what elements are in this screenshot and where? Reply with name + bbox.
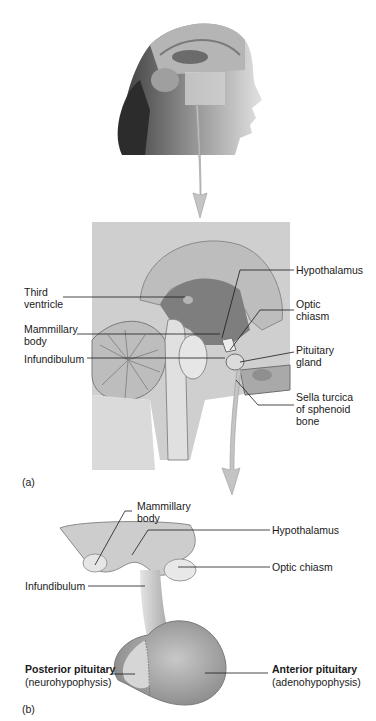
panel-a-label: (a) (22, 476, 35, 488)
label-optic-chiasm-b: Optic chiasm (272, 561, 333, 573)
label-neurohypophysis: (neurohypophysis) (25, 676, 111, 688)
label-pituitary-gland: Pituitary gland (296, 344, 334, 368)
label-adenohypophysis: (adenohypophysis) (272, 676, 361, 688)
label-hypothalamus: Hypothalamus (296, 264, 363, 276)
panel-b-label: (b) (22, 703, 35, 715)
label-optic-chiasm: Optic chiasm (296, 298, 329, 322)
label-mammillary-body: Mammillary body (24, 323, 78, 347)
head-illustration (118, 24, 262, 155)
label-mammillary-body-b: Mammillary body (137, 500, 191, 524)
label-infundibulum-b: Infundibulum (25, 580, 85, 592)
sagittal-brain-section (92, 222, 290, 470)
label-third-ventricle: Third ventricle (24, 286, 63, 310)
label-infundibulum: Infundibulum (24, 353, 84, 365)
label-hypothalamus-b: Hypothalamus (272, 524, 339, 536)
label-sella-turcica: Sella turcica of sphenoid bone (296, 391, 353, 427)
label-anterior-pituitary: Anterior pituitary (272, 663, 357, 675)
label-posterior-pituitary: Posterior pituitary (25, 663, 115, 675)
